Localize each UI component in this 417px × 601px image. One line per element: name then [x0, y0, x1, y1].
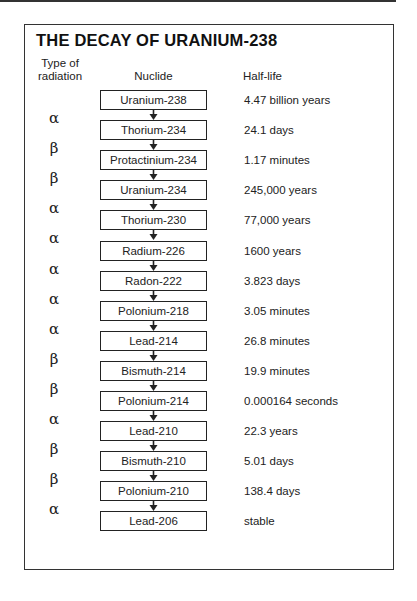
arrow-down-icon	[148, 471, 159, 481]
nuclide-box: Uranium-234	[100, 180, 207, 200]
half-life-value: 3.05 minutes	[244, 301, 310, 321]
nuclide-box: Polonium-210	[100, 481, 207, 501]
header-type-line1: Type of	[34, 57, 86, 70]
arrow-down-icon	[148, 441, 159, 451]
radiation-type: α	[44, 261, 64, 277]
nuclide-box: Radium-226	[100, 241, 207, 261]
arrow-down-icon	[148, 230, 159, 240]
half-life-value: 24.1 days	[244, 120, 294, 140]
nuclide-box: Uranium-238	[100, 90, 207, 110]
half-life-value: 77,000 years	[244, 210, 311, 230]
diagram-frame	[24, 24, 394, 570]
arrow-down-icon	[148, 140, 159, 150]
header-type-of-radiation: Type of radiation	[34, 57, 86, 83]
radiation-type: β	[44, 381, 64, 397]
radiation-type: β	[44, 140, 64, 156]
header-nuclide: Nuclide	[100, 70, 207, 83]
radiation-type: α	[44, 501, 64, 517]
radiation-type: α	[44, 321, 64, 337]
arrow-down-icon	[148, 291, 159, 301]
nuclide-box: Bismuth-214	[100, 361, 207, 381]
radiation-type: α	[44, 110, 64, 126]
half-life-value: 5.01 days	[244, 451, 294, 471]
nuclide-box: Lead-210	[100, 421, 207, 441]
nuclide-box: Protactinium-234	[100, 150, 207, 170]
half-life-value: 19.9 minutes	[244, 361, 310, 381]
arrow-down-icon	[148, 321, 159, 331]
nuclide-box: Polonium-218	[100, 301, 207, 321]
nuclide-box: Thorium-234	[100, 120, 207, 140]
radiation-type: β	[44, 170, 64, 186]
arrow-down-icon	[148, 170, 159, 180]
arrow-down-icon	[148, 200, 159, 210]
header-half-life: Half-life	[243, 70, 282, 83]
arrow-down-icon	[148, 501, 159, 511]
nuclide-box: Lead-214	[100, 331, 207, 351]
radiation-type: α	[44, 230, 64, 246]
arrow-down-icon	[148, 110, 159, 120]
arrow-down-icon	[148, 261, 159, 271]
nuclide-box: Thorium-230	[100, 210, 207, 230]
arrow-down-icon	[148, 351, 159, 361]
arrow-down-icon	[148, 381, 159, 391]
half-life-value: 1600 years	[244, 241, 301, 261]
nuclide-box: Bismuth-210	[100, 451, 207, 471]
nuclide-box: Lead-206	[100, 511, 207, 531]
half-life-value: 138.4 days	[244, 481, 300, 501]
half-life-value: 245,000 years	[244, 180, 317, 200]
half-life-value: 1.17 minutes	[244, 150, 310, 170]
radiation-type: β	[44, 471, 64, 487]
nuclide-box: Polonium-214	[100, 391, 207, 411]
radiation-type: α	[44, 200, 64, 216]
half-life-value: stable	[244, 511, 275, 531]
nuclide-box: Radon-222	[100, 271, 207, 291]
half-life-value: 26.8 minutes	[244, 331, 310, 351]
half-life-value: 0.000164 seconds	[244, 391, 338, 411]
radiation-type: β	[44, 351, 64, 367]
radiation-type: α	[44, 411, 64, 427]
radiation-type: α	[44, 291, 64, 307]
radiation-type: β	[44, 441, 64, 457]
half-life-value: 3.823 days	[244, 271, 300, 291]
diagram-title: THE DECAY OF URANIUM-238	[36, 31, 277, 50]
header-type-line2: radiation	[34, 70, 86, 83]
half-life-value: 4.47 billion years	[244, 90, 330, 110]
arrow-down-icon	[148, 411, 159, 421]
half-life-value: 22.3 years	[244, 421, 298, 441]
top-rule	[0, 0, 396, 2]
